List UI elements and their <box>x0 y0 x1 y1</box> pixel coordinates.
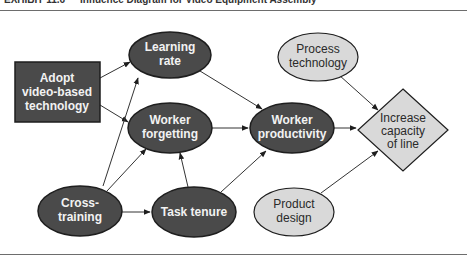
node-label-line: forgetting <box>142 127 198 141</box>
node-label-line: Learning <box>145 40 196 54</box>
node-label-line: Process <box>296 42 339 56</box>
node-label-line: Cross- <box>61 196 99 210</box>
node-cross-training: Cross- training <box>38 186 122 236</box>
node-label-line: Increase <box>380 111 426 125</box>
influence-diagram: Adopt video-based technology Learning ra… <box>0 0 471 257</box>
node-label-line: Product <box>273 197 315 211</box>
node-adopt-video-technology: Adopt video-based technology <box>15 62 100 122</box>
node-label-line: technology <box>289 56 347 70</box>
node-label-line: Worker <box>149 113 190 127</box>
node-label-line: of line <box>387 137 419 151</box>
node-label-line: technology <box>25 99 89 113</box>
node-label-line: video-based <box>22 85 92 99</box>
edge-adopt-to-learning <box>100 62 130 78</box>
node-label-line: rate <box>159 54 181 68</box>
node-label-line: productivity <box>258 127 327 141</box>
node-task-tenure: Task tenure <box>152 187 236 237</box>
node-increase-capacity: Increase capacity of line <box>358 89 448 171</box>
node-label-line: Task tenure <box>161 205 228 219</box>
node-process-technology: Process technology <box>278 33 358 81</box>
edge-learning-to-productivity <box>200 71 262 109</box>
node-learning-rate: Learning rate <box>129 32 211 78</box>
node-label-line: training <box>58 210 102 224</box>
node-label-line: design <box>276 211 311 225</box>
node-label-line: Adopt <box>40 71 75 85</box>
node-label-line: capacity <box>381 124 425 138</box>
edge-product-to-capacity <box>321 151 378 193</box>
edge-tenure-to-productivity <box>221 151 266 192</box>
node-product-design: Product design <box>254 188 334 236</box>
edge-adopt-to-forgetting <box>100 105 128 122</box>
edge-process-to-capacity <box>339 75 378 110</box>
node-label-line: Worker <box>271 113 312 127</box>
edge-tenure-to-forgetting <box>180 153 188 187</box>
node-worker-forgetting: Worker forgetting <box>128 103 212 153</box>
node-worker-productivity: Worker productivity <box>250 103 334 153</box>
